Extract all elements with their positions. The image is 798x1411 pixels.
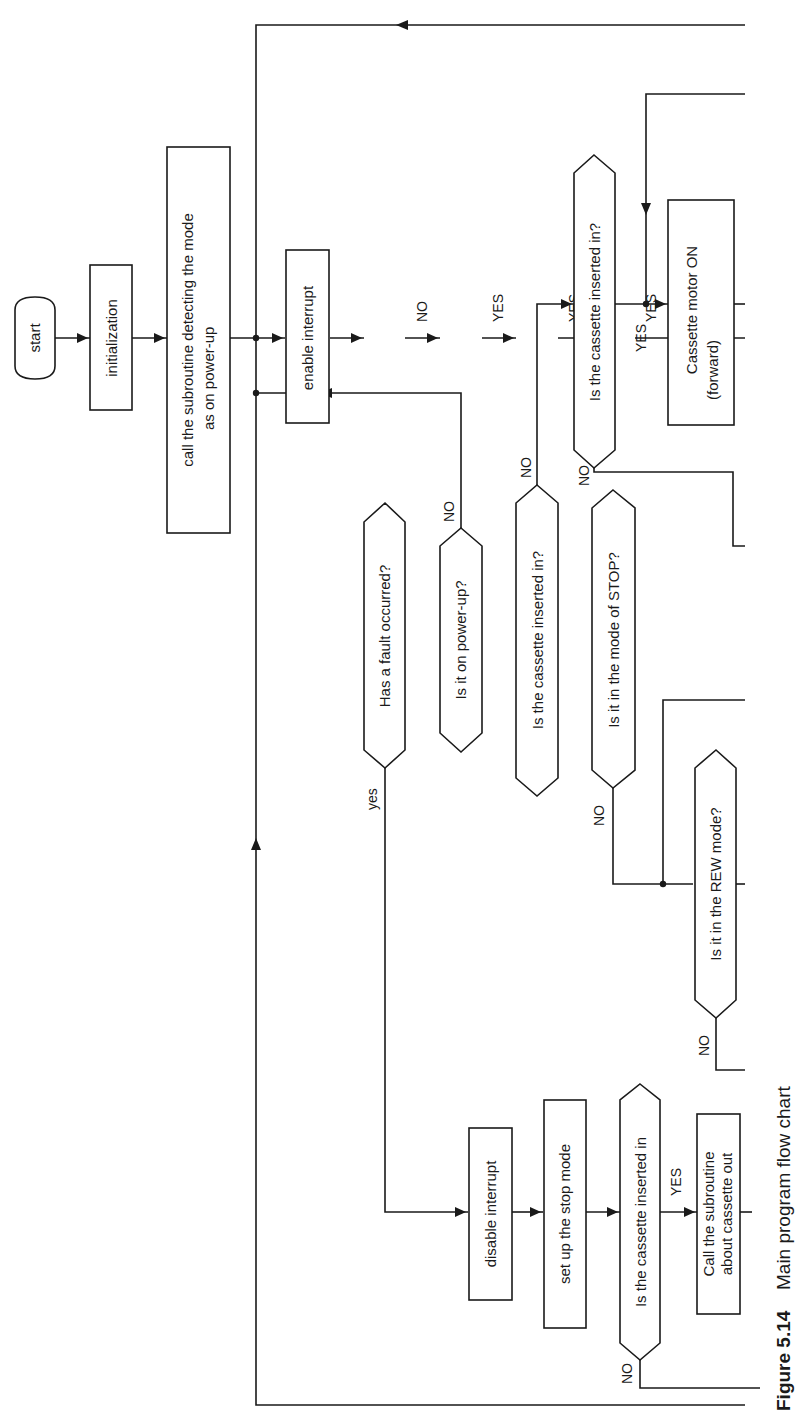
node-set-stop-mode: set up the stop mode bbox=[544, 1100, 586, 1328]
node-cassette-motor-on: Cassette motor ON (forward) bbox=[668, 200, 734, 425]
node-cassette-question-3: Is the cassette inserted in bbox=[620, 1084, 660, 1360]
motor-on-label-2: (forward) bbox=[704, 340, 721, 400]
enable-interrupt-label: enable interrupt bbox=[299, 285, 316, 390]
disable-interrupt-label: disable interrupt bbox=[482, 1160, 499, 1268]
stop-no-line bbox=[613, 788, 693, 884]
call-detect-label-2: as on power-up bbox=[200, 327, 217, 430]
arrow-right-icon bbox=[77, 333, 88, 343]
fault-no-label: NO bbox=[414, 301, 430, 322]
powerup-no-label: NO bbox=[441, 501, 457, 522]
rew-no-line bbox=[716, 1018, 745, 1070]
cassette3-no-label: NO bbox=[619, 1363, 635, 1384]
initialization-label: initialization bbox=[103, 299, 120, 377]
start-label: start bbox=[26, 323, 43, 353]
arrow-right-icon bbox=[154, 333, 165, 343]
cassette-question-3-label: Is the cassette inserted in bbox=[632, 1137, 649, 1307]
powerup-yes-label: YES bbox=[490, 294, 506, 322]
cassette-question-2-label: Is the cassette inserted in? bbox=[586, 223, 603, 401]
cassette-no-line bbox=[537, 304, 574, 485]
cassette2-yes-label: YES bbox=[633, 324, 649, 352]
cassette2-no-label: NO bbox=[576, 465, 592, 486]
node-powerup-question: Is it on power-up? bbox=[440, 528, 482, 752]
node-enable-interrupt: enable interrupt bbox=[286, 250, 329, 423]
node-initialization: initialization bbox=[90, 265, 132, 410]
stop-no-label: NO bbox=[591, 805, 607, 826]
node-rew-question: Is it in the REW mode? bbox=[695, 750, 736, 1018]
arrow-down-icon bbox=[641, 203, 651, 215]
powerup-question-label: Is it on power-up? bbox=[452, 580, 469, 699]
call-out-label-1: Call the subroutine bbox=[700, 1151, 717, 1276]
node-cassette-question-2: Is the cassette inserted in? bbox=[574, 155, 615, 468]
arrow-right-icon bbox=[427, 333, 438, 343]
stop-yes-label: YES bbox=[643, 294, 659, 322]
arrow-right-icon bbox=[503, 333, 514, 343]
call-detect-label-1: call the subroutine detecting the mode bbox=[179, 213, 196, 467]
caption-title: Main program flow chart bbox=[773, 1085, 794, 1290]
fault-yes-line bbox=[385, 768, 468, 1212]
fault-yes-label: yes bbox=[364, 788, 380, 810]
node-start: start bbox=[15, 297, 55, 379]
arrow-right-icon bbox=[607, 1207, 618, 1217]
fault-question-label: Has a fault occurred? bbox=[376, 565, 393, 708]
arrow-right-icon bbox=[455, 1207, 466, 1217]
node-cassette-question-1: Is the cassette inserted in? bbox=[516, 485, 558, 796]
flowchart: start initialization call the subroutine… bbox=[0, 0, 798, 1411]
cassette3-no-line bbox=[640, 1360, 760, 1388]
arrow-right-icon bbox=[530, 1207, 541, 1217]
cassette1-no-label: NO bbox=[518, 457, 534, 478]
set-stop-mode-label: set up the stop mode bbox=[556, 1144, 573, 1284]
arrow-left-icon bbox=[396, 20, 408, 30]
node-call-detect-mode: call the subroutine detecting the mode a… bbox=[167, 147, 230, 533]
cassette-question-1-label: Is the cassette inserted in? bbox=[529, 551, 546, 729]
rew-no-label: NO bbox=[696, 1035, 712, 1056]
node-disable-interrupt: disable interrupt bbox=[469, 1128, 512, 1300]
figure-caption: Figure 5.14 Main program flow chart bbox=[773, 1085, 794, 1411]
arrow-right-icon bbox=[684, 1207, 695, 1217]
arrow-right-icon bbox=[351, 333, 362, 343]
node-stop-question: Is it in the mode of STOP? bbox=[592, 490, 635, 788]
arrow-up-icon bbox=[251, 838, 261, 850]
node-fault-question: Has a fault occurred? bbox=[364, 503, 405, 768]
call-out-label-2: about cassette out bbox=[718, 1152, 735, 1275]
rew-question-label: Is it in the REW mode? bbox=[707, 807, 724, 960]
motor-on-label-1: Cassette motor ON bbox=[683, 246, 700, 374]
arrow-right-icon bbox=[272, 333, 283, 343]
junction-dot bbox=[253, 335, 259, 341]
cassette3-yes-label: YES bbox=[668, 1168, 684, 1196]
stop-question-label: Is it in the mode of STOP? bbox=[605, 552, 622, 728]
node-call-cassette-out: Call the subroutine about cassette out bbox=[697, 1114, 740, 1314]
caption-number: Figure 5.14 bbox=[773, 1310, 794, 1411]
